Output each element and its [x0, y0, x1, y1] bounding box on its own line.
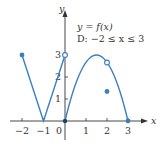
graph-curves: [22, 55, 128, 121]
x-tick-label: 0: [56, 125, 62, 136]
x-tick-label: 3: [125, 125, 131, 136]
v-shape-segment: [22, 55, 65, 121]
function-graph: −2 −1 0 1 2 3 1 2 3 x y y = f(x) D: −2 ≤…: [0, 0, 163, 146]
x-tick-label: −1: [36, 125, 50, 136]
plot-svg: −2 −1 0 1 2 3 1 2 3 x y y = f(x) D: −2 ≤…: [0, 0, 163, 146]
x-tick-label: −2: [15, 125, 29, 136]
x-axis-label: x: [151, 115, 157, 126]
x-tick-label: 1: [83, 125, 89, 136]
y-tick-label: 1: [55, 93, 61, 104]
function-annotation: y = f(x): [76, 21, 113, 32]
domain-annotation: D: −2 ≤ x ≤ 3: [77, 33, 144, 44]
x-axis-arrow-icon: [141, 119, 148, 124]
parabola-segment: [65, 55, 128, 121]
x-tick-label: 2: [104, 125, 110, 136]
y-tick-label: 3: [55, 49, 61, 60]
filled-points: [20, 53, 131, 124]
y-axis-label: y: [58, 3, 65, 14]
